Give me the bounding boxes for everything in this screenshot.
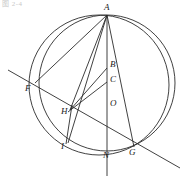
- point-label-O: O: [110, 99, 117, 108]
- secant-line-FG: [8, 70, 180, 168]
- point-label-B: B: [110, 60, 116, 69]
- segment-A-I: [68, 15, 107, 143]
- point-label-N: N: [103, 151, 109, 160]
- point-label-F: F: [25, 84, 31, 93]
- geometry-figure: 图 2-4 A B C O F H I N G: [0, 0, 186, 183]
- segment-C-H: [68, 82, 107, 112]
- point-label-H: H: [61, 107, 68, 116]
- point-label-C: C: [110, 75, 116, 84]
- point-label-A: A: [104, 3, 110, 12]
- point-label-G: G: [129, 148, 136, 157]
- point-label-I: I: [61, 142, 64, 151]
